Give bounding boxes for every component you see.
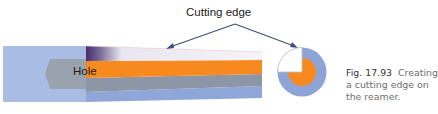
reamer-body (86, 46, 262, 102)
figure-number: Fig. 17.93 (346, 67, 392, 78)
figure-caption: Fig. 17.93 Creating a cutting edge on th… (346, 67, 438, 103)
arrow-left-head (166, 43, 174, 49)
cutting-edge-strip (86, 46, 262, 61)
cross-section-notch (278, 48, 303, 73)
reamer-cross-section (278, 48, 327, 97)
cutting-edge-arrows (166, 24, 298, 49)
arrow-right-line (235, 24, 294, 46)
hole-label: Hole (73, 65, 97, 77)
arrow-left-line (170, 24, 235, 47)
cutting-edge-label: Cutting edge (186, 6, 251, 18)
arrow-right-head (290, 42, 298, 48)
